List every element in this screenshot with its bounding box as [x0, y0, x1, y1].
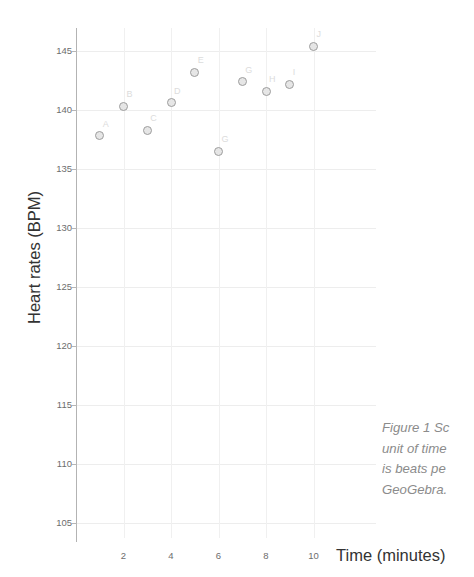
data-point[interactable]: [190, 68, 199, 77]
data-point-label: G: [222, 134, 229, 144]
x-axis-tick-label: 8: [254, 550, 278, 561]
gridline-vertical: [266, 28, 267, 538]
data-point-label: G: [245, 65, 252, 75]
figure-caption: Figure 1 Sc unit of time is beats pe Geo…: [382, 418, 474, 500]
data-point[interactable]: [238, 77, 247, 86]
caption-line-1: Figure 1 Sc: [382, 418, 474, 439]
y-axis-tick-label: 115: [32, 399, 72, 410]
y-axis-tick-mark: [72, 346, 77, 347]
scatter-plot-area: 105110115120125130135140145 246810 ABCDE…: [76, 10, 416, 542]
data-point[interactable]: [262, 87, 271, 96]
data-point[interactable]: [119, 102, 128, 111]
gridline-horizontal: [76, 169, 376, 170]
data-point-label: C: [150, 113, 157, 123]
y-axis-tick-mark: [72, 523, 77, 524]
gridline-vertical: [219, 28, 220, 538]
x-axis-title: Time (minutes): [336, 546, 445, 565]
data-point[interactable]: [309, 42, 318, 51]
y-axis-tick-label: 110: [32, 458, 72, 469]
data-point[interactable]: [285, 80, 294, 89]
x-axis-tick-label: 2: [112, 550, 136, 561]
y-axis-tick-label: 135: [32, 163, 72, 174]
y-axis-tick-mark: [72, 464, 77, 465]
caption-line-2: unit of time: [382, 439, 474, 460]
gridline-horizontal: [76, 405, 376, 406]
y-axis-title: Heart rates (BPM): [25, 148, 44, 368]
gridline-horizontal: [76, 228, 376, 229]
data-point-label: H: [269, 74, 276, 84]
y-axis-tick-label: 145: [32, 45, 72, 56]
caption-line-3: is beats pe: [382, 459, 474, 480]
gridline-horizontal: [76, 51, 376, 52]
x-axis-tick-label: 6: [207, 550, 231, 561]
x-axis-tick-label: 10: [302, 550, 326, 561]
data-point-label: D: [174, 86, 181, 96]
y-axis-tick-mark: [72, 51, 77, 52]
data-point[interactable]: [214, 147, 223, 156]
y-axis-tick-mark: [72, 169, 77, 170]
data-point-label: E: [198, 55, 204, 65]
data-point[interactable]: [167, 98, 176, 107]
gridline-horizontal: [76, 523, 376, 524]
gridline-horizontal: [76, 346, 376, 347]
data-point-label: I: [293, 67, 296, 77]
gridline-vertical: [314, 28, 315, 538]
gridline-horizontal: [76, 464, 376, 465]
y-axis-tick-label: 105: [32, 517, 72, 528]
gridline-horizontal: [76, 287, 376, 288]
caption-line-4: GeoGebra.: [382, 480, 474, 501]
data-point-label: A: [103, 119, 109, 129]
x-axis-tick-label: 4: [159, 550, 183, 561]
y-axis-tick-mark: [72, 405, 77, 406]
data-point[interactable]: [95, 131, 104, 140]
data-point-label: B: [127, 89, 133, 99]
y-axis-tick-mark: [72, 110, 77, 111]
y-axis-tick-mark: [72, 228, 77, 229]
clipped-header-text: [0, 0, 474, 10]
y-axis-tick-label: 120: [32, 340, 72, 351]
y-axis-tick-mark: [72, 287, 77, 288]
y-axis-tick-label: 140: [32, 104, 72, 115]
y-axis-tick-label: 130: [32, 222, 72, 233]
data-point[interactable]: [143, 126, 152, 135]
y-axis-tick-label: 125: [32, 281, 72, 292]
data-point-label: J: [317, 29, 322, 39]
